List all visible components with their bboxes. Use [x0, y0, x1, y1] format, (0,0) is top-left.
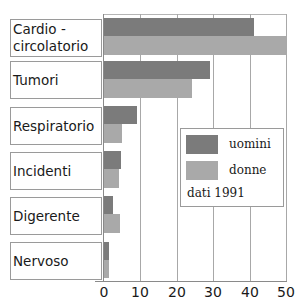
- tick-label-30: 30: [198, 284, 228, 300]
- bar-incidenti-uomini: [104, 151, 121, 169]
- bar-incidenti-donne: [104, 169, 119, 188]
- tick-label-50: 50: [271, 284, 301, 300]
- bar-respiratorio-donne: [104, 124, 122, 143]
- category-digerente-label: Digerente: [13, 208, 80, 225]
- tick-label-20: 20: [162, 284, 192, 300]
- category-nervoso: Nervoso: [10, 242, 102, 280]
- category-cardio-line1: Cardio -: [13, 21, 88, 38]
- bar-nervoso-donne: [104, 260, 109, 278]
- category-incidenti-label: Incidenti: [13, 163, 71, 180]
- category-incidenti: Incidenti: [10, 152, 102, 190]
- bar-nervoso-uomini: [104, 242, 109, 260]
- tick-label-40: 40: [235, 284, 265, 300]
- bar-cardio-donne: [104, 36, 286, 55]
- bar-cardio-uomini: [104, 18, 254, 36]
- bar-tumori-uomini: [104, 61, 210, 79]
- category-respiratorio: Respiratorio: [10, 107, 102, 145]
- tick-label-10: 10: [125, 284, 155, 300]
- bar-tumori-donne: [104, 79, 192, 98]
- category-digerente: Digerente: [10, 197, 102, 235]
- category-tumori-label: Tumori: [13, 72, 58, 89]
- category-cardio-line2: circolatorio: [13, 38, 88, 55]
- tick-label-0: 0: [89, 284, 119, 300]
- legend-label-donne: donne: [229, 163, 266, 177]
- legend-swatch-donne: [186, 161, 218, 180]
- category-cardio: Cardio - circolatorio: [10, 19, 102, 57]
- bar-respiratorio-uomini: [104, 106, 137, 124]
- x-axis: [95, 281, 287, 282]
- category-respiratorio-label: Respiratorio: [13, 118, 94, 135]
- category-tumori: Tumori: [10, 61, 102, 99]
- bar-digerente-donne: [104, 214, 120, 233]
- legend-label-uomini: uomini: [229, 137, 271, 151]
- category-nervoso-label: Nervoso: [13, 253, 69, 270]
- gridline-50: [286, 14, 287, 282]
- y-axis: [103, 14, 104, 282]
- legend-swatch-uomini: [186, 135, 218, 154]
- legend-note: dati 1991: [187, 186, 245, 200]
- plot-top-border: [103, 14, 286, 15]
- bar-digerente-uomini: [104, 196, 113, 214]
- legend: uomini donne dati 1991: [180, 128, 284, 207]
